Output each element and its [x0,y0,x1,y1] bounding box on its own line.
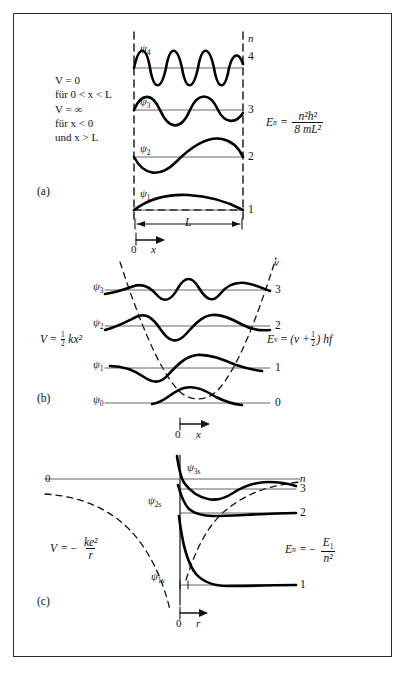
x-axis-label-b: x [196,429,201,440]
psi-sub-a2: 2 [147,148,151,157]
width-label-L: L [185,217,191,229]
energy-formula-a-lhs: E [266,117,273,129]
x-axis-arrowhead-b [201,420,210,428]
psi-sub-b3: 3 [100,286,104,295]
energy-formula-c-denominator: n² [321,551,334,564]
level-number-a3: 3 [248,104,254,116]
potential-formula-b: V = 1 2 kx² [40,331,82,348]
potential-formula-c: V = − ke² r [50,536,101,561]
potential-formula-b-rest: kx² [68,334,82,346]
psi-sub-a4: 4 [147,48,151,57]
wavefunction-psi2-b [105,315,270,341]
panel-tag-a: (a) [37,186,50,198]
psi-sub-b2: 2 [100,322,104,331]
level-number-b3: 3 [275,284,281,296]
psi-label-b2: ψ2 [93,317,104,331]
psi-glyph-c2s: ψ [148,494,155,506]
energy-formula-a-numerator: n²h² [296,110,318,122]
energy-formula-a-denominator: 8 mL² [292,122,323,135]
potential-formula-c-lhs: V [50,543,57,555]
wavefunction-psi0-b [152,387,242,405]
energy-formula-c-lhs: E [285,544,292,556]
origin-label-a: 0 [131,244,137,255]
energy-formula-b-half-den: 2 [311,339,315,348]
level-number-b2: 2 [275,320,281,332]
psi-label-a2: ψ2 [140,143,151,157]
dimension-arrow-left [137,221,145,227]
psi-label-a1: ψ1 [140,188,151,202]
potential-condition-a-line5: und x > L [55,132,98,143]
level-number-a2: 2 [248,151,254,163]
psi-label-c3s: ψ3s [187,462,201,476]
psi-glyph-a3: ψ [140,95,147,107]
psi-glyph-a4: ψ [140,42,147,54]
psi-glyph-a2: ψ [140,142,147,154]
energy-formula-c-fraction: E1 n² [321,536,336,564]
r-axis-arrowhead-c [199,609,208,617]
level-number-c3: 3 [300,483,306,495]
energy-formula-b-lhs-sub: v [274,336,278,344]
energy-formula-c-numerator: E1 [321,536,336,551]
psi-sub-c3s: 3s [194,467,201,476]
psi-glyph-b0: ψ [93,393,100,405]
energy-formula-a-eq: = [281,117,288,129]
level-number-c2: 2 [300,507,306,519]
energy-formula-b-eq: = [281,334,288,346]
wavefunction-psi3-b [105,279,270,300]
energy-formula-b-close: ) hf [317,334,333,346]
psi-label-a4: ψ4 [140,43,151,57]
energy-formula-a: En = n²h² 8 mL² [266,110,324,135]
r-axis-label-c: r [196,618,200,629]
psi-sub-a3: 3 [147,101,151,110]
energy-formula-b-half-num: 1 [311,331,315,339]
energy-formula-b-lhs: E [267,334,274,346]
energy-formula-c: En = − E1 n² [285,536,336,564]
figure-page: (a) V = 0 für 0 < x < L V = ∞ für x < 0 … [0,0,406,673]
potential-formula-b-half-num: 1 [61,331,65,339]
potential-condition-a-line3: V = ∞ [55,104,82,115]
potential-condition-a-line1: V = 0 [55,75,80,86]
psi-label-b1: ψ1 [93,359,104,373]
potential-condition-a-line2: für 0 < x < L [55,89,112,100]
dimension-arrow-right [232,221,240,227]
level-number-a4: 4 [248,51,254,63]
psi-glyph-c3s: ψ [187,461,194,473]
energy-formula-b: Ev = (v + 1 2 ) hf [267,331,332,348]
panel-tag-c: (c) [37,596,50,608]
psi-glyph-b2: ψ [93,316,100,328]
psi-glyph-c1s: ψ [151,570,158,582]
psi-sub-a1: 1 [147,193,151,202]
energy-formula-a-lhs-sub: n [273,119,277,127]
energy-formula-b-half: 1 2 [311,331,315,348]
quantum-axis-label-b: v [274,257,279,268]
potential-formula-c-fraction: ke² r [82,536,100,561]
energy-formula-c-num-sub: 1 [330,542,334,551]
potential-formula-c-eq: = − [61,543,77,555]
quantum-axis-label-a: n [248,33,254,44]
energy-formula-c-num-base: E [323,536,330,548]
energy-formula-b-open: (v + [290,334,310,346]
psi-glyph-b3: ψ [93,280,100,292]
level-number-b0: 0 [275,397,281,409]
level-number-c1: 1 [300,579,306,591]
potential-condition-a-line4: für x < 0 [55,118,93,129]
potential-formula-b-half-den: 2 [61,339,65,348]
origin-label-b: 0 [175,429,181,440]
zero-energy-label-c: 0 [45,473,51,484]
potential-formula-b-half: 1 2 [61,331,65,348]
potential-formula-c-denominator: r [86,548,94,561]
wavefunction-psi1s [179,516,296,586]
x-axis-arrowhead-a [156,236,165,244]
psi-sub-c1s: 1s [158,576,165,585]
psi-sub-c2s: 2s [155,500,162,509]
potential-formula-b-lhs: V [40,334,47,346]
psi-glyph-a1: ψ [140,187,147,199]
energy-formula-a-fraction: n²h² 8 mL² [292,110,323,135]
panel-tag-b: (b) [37,393,50,405]
psi-label-c1s: ψ1s [151,571,165,585]
x-axis-label-a: x [151,244,156,255]
psi-glyph-b1: ψ [93,358,100,370]
potential-formula-b-eq: = [50,334,57,346]
psi-label-b3: ψ3 [93,281,104,295]
potential-formula-c-numerator: ke² [82,536,100,548]
